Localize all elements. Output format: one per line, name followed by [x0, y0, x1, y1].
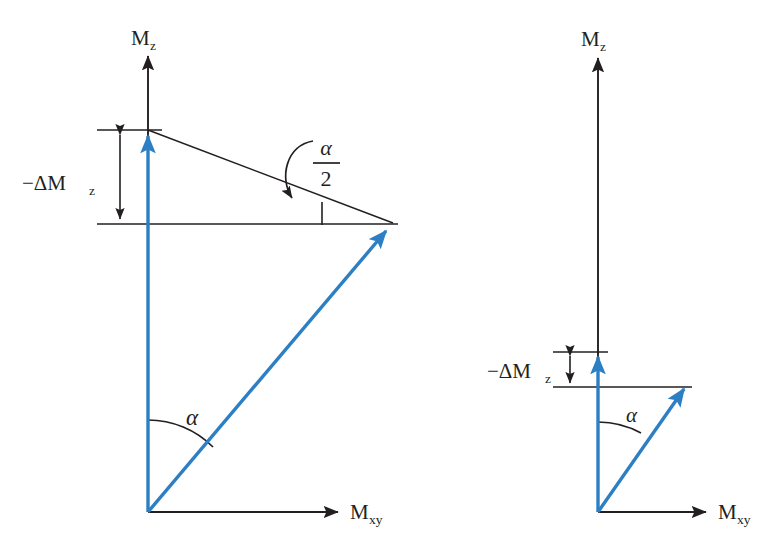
left-mxy-axis-label-text: M	[350, 500, 369, 524]
left-delta-mz-label: −ΔM z	[22, 171, 95, 198]
left-mxy-axis-label: M xy	[350, 500, 383, 527]
left-half-alpha-denominator: 2	[321, 166, 332, 191]
right-m-tilted-vector	[598, 389, 684, 512]
figure-root: M z M xy −ΔM z α 2 α	[0, 0, 780, 545]
right-mz-axis-label: M z	[581, 27, 606, 54]
right-mz-axis-label-subscript: z	[600, 39, 606, 54]
left-half-alpha-label: α 2	[313, 135, 340, 191]
left-mz-axis-label: M z	[131, 26, 156, 53]
left-delta-mz-label-text: −ΔM	[22, 171, 66, 195]
left-alpha-arc	[148, 420, 213, 447]
left-panel: M z M xy −ΔM z α 2 α	[22, 26, 398, 527]
right-delta-mz-label: −ΔM z	[487, 359, 551, 386]
right-delta-mz-label-subscript: z	[545, 371, 551, 386]
right-mz-axis-label-text: M	[581, 27, 600, 51]
left-half-angle-arc-arrow	[286, 141, 313, 198]
left-delta-mz-label-subscript: z	[89, 183, 95, 198]
right-mxy-axis-label-subscript: xy	[737, 512, 751, 527]
right-alpha-label: α	[626, 403, 638, 427]
left-m-tilted-vector	[148, 231, 386, 512]
magnetization-vector-diagram: M z M xy −ΔM z α 2 α	[0, 0, 780, 545]
right-panel: M z M xy −ΔM z α	[487, 27, 751, 527]
right-mxy-axis-label: M xy	[718, 500, 751, 527]
left-mz-axis-label-text: M	[131, 26, 150, 50]
left-half-alpha-numerator: α	[320, 135, 332, 160]
left-mxy-axis-label-subscript: xy	[369, 512, 383, 527]
right-delta-mz-label-text: −ΔM	[487, 359, 531, 383]
left-chord-line	[148, 130, 393, 223]
left-mz-axis-label-subscript: z	[150, 38, 156, 53]
right-mxy-axis-label-text: M	[718, 500, 737, 524]
left-alpha-label: α	[186, 405, 199, 430]
